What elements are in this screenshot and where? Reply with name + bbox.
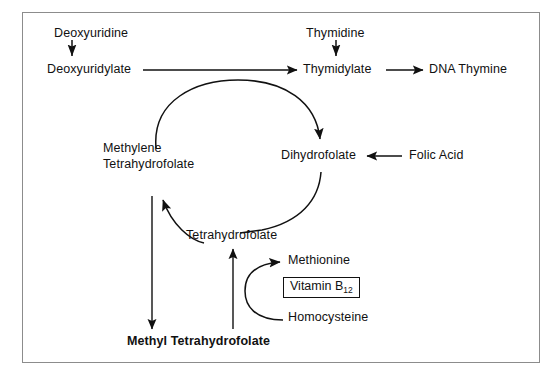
- vitamin-b12-subscript: 12: [343, 285, 352, 295]
- node-dihydrofolate: Dihydrofolate: [281, 148, 356, 163]
- vitamin-b12-box: Vitamin B12: [283, 277, 360, 298]
- node-methylene-line1: Methylene: [103, 141, 162, 155]
- node-dna-thymine: DNA Thymine: [429, 62, 507, 77]
- node-methyl-tetrahydrofolate: Methyl Tetrahydrofolate: [127, 334, 270, 349]
- figure-canvas: Deoxyuridine Deoxyuridylate Thymidine Th…: [0, 0, 553, 379]
- node-methylene-tetrahydrofolate: Methylene Tetrahydrofolate: [103, 140, 223, 172]
- node-methionine: Methionine: [288, 253, 350, 268]
- vitamin-b12-label: Vitamin B: [290, 279, 343, 293]
- node-thymidine: Thymidine: [306, 26, 365, 41]
- node-homocysteine: Homocysteine: [288, 310, 368, 325]
- node-folic-acid: Folic Acid: [409, 148, 464, 163]
- node-methylene-line2: Tetrahydrofolate: [103, 157, 194, 171]
- node-deoxyuridine: Deoxyuridine: [54, 26, 128, 41]
- node-tetrahydrofolate: Tetrahydrofolate: [186, 228, 277, 243]
- node-thymidylate: Thymidylate: [303, 62, 371, 77]
- node-deoxyuridylate: Deoxyuridylate: [47, 62, 131, 77]
